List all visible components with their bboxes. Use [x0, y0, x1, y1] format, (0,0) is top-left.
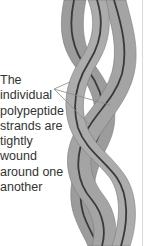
annotation-line: strands are — [0, 119, 62, 134]
annotation-line: tightly — [0, 134, 62, 149]
annotation-line: The — [0, 73, 62, 88]
strand-annotation: The individual polypeptide strands are t… — [0, 73, 62, 195]
page-edge-divider — [142, 0, 143, 246]
annotation-line: individual — [0, 88, 62, 103]
annotation-line: wound — [0, 149, 62, 164]
annotation-line: polypeptide — [0, 104, 62, 119]
annotation-line: around one — [0, 165, 62, 180]
annotation-line: another — [0, 180, 62, 195]
